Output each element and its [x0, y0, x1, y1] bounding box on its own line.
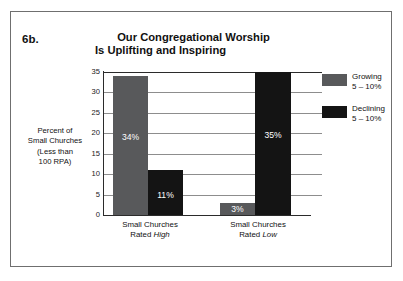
chart-title-line2: Is Uplifting and Inspiring: [86, 44, 301, 57]
figure-number: 6b.: [22, 33, 39, 45]
y-axis-label-line4: 100 RPA): [39, 157, 72, 166]
y-tick-35: 35: [74, 68, 100, 76]
y-axis-label-line3: (Less than: [37, 147, 73, 156]
plot-area: 34% 11% 3% 35%: [103, 72, 310, 215]
bar-high-growing[interactable]: 34%: [113, 76, 148, 215]
x-axis-line: [103, 215, 311, 216]
bar-label-low-growing: 3%: [220, 204, 255, 214]
x-category-high-line1: Small Churches: [122, 220, 178, 229]
bar-low-declining[interactable]: 35%: [255, 72, 291, 215]
legend-name-declining: Declining: [352, 104, 385, 113]
legend-range-declining: 5 – 10%: [352, 114, 381, 123]
y-tick-5: 5: [74, 191, 100, 199]
bar-high-declining[interactable]: 11%: [148, 170, 183, 215]
bar-label-high-growing: 34%: [113, 132, 148, 142]
legend-swatch-declining: [322, 106, 347, 118]
y-tick-10: 10: [74, 170, 100, 178]
x-category-high-line2-prefix: Rated: [130, 230, 153, 239]
x-category-low-line2-prefix: Rated: [239, 230, 262, 239]
legend-name-growing: Growing: [352, 72, 382, 81]
chart-title-line1: Our Congregational Worship: [86, 31, 301, 44]
chart-title: Our Congregational Worship Is Uplifting …: [86, 31, 301, 58]
x-category-high-emphasis: High: [154, 230, 170, 239]
legend-swatch-growing: [322, 74, 347, 86]
x-category-low-emphasis: Low: [262, 230, 276, 239]
legend-range-growing: 5 – 10%: [352, 82, 381, 91]
bar-label-low-declining: 35%: [255, 130, 291, 140]
y-tick-0: 0: [74, 211, 100, 219]
y-tick-15: 15: [74, 150, 100, 158]
bar-label-high-declining: 11%: [148, 190, 183, 200]
bar-low-growing[interactable]: 3%: [220, 203, 255, 215]
y-axis-label-line1: Percent of: [37, 126, 72, 135]
x-category-low: Small Churches Rated Low: [203, 220, 313, 240]
y-tick-20: 20: [74, 129, 100, 137]
x-category-high: Small Churches Rated High: [95, 220, 205, 240]
x-category-low-line1: Small Churches: [230, 220, 286, 229]
legend-text-growing: Growing 5 – 10%: [352, 72, 382, 91]
legend-text-declining: Declining 5 – 10%: [352, 104, 385, 123]
figure-panel: 6b. Our Congregational Worship Is Uplift…: [0, 0, 403, 281]
y-tick-30: 30: [74, 88, 100, 96]
y-axis-label-line2: Small Churches: [28, 136, 82, 145]
y-tick-25: 25: [74, 109, 100, 117]
